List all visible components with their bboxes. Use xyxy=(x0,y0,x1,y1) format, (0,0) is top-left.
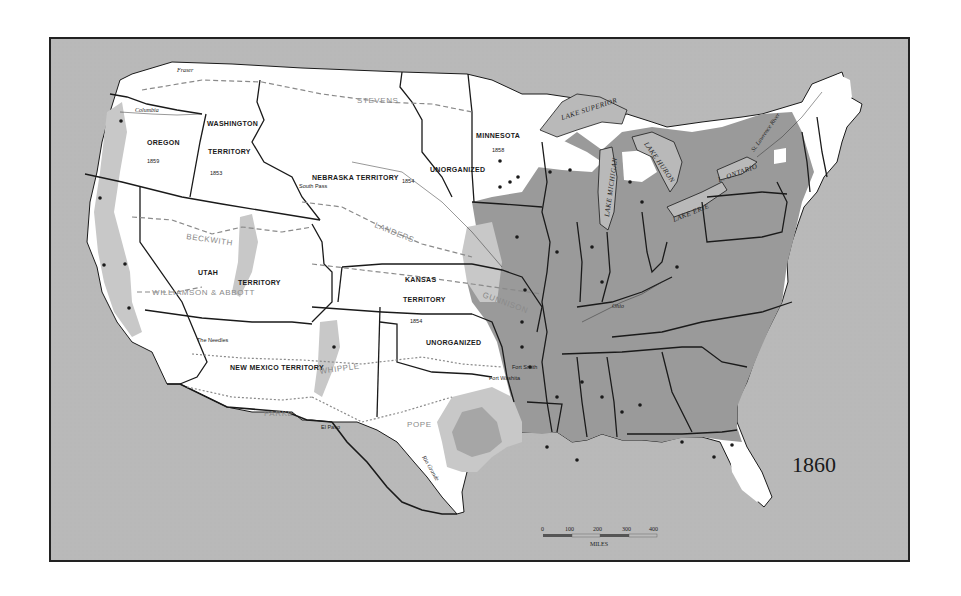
scale-tick-400: 400 xyxy=(649,526,658,532)
label-new-mexico: NEW MEXICO TERRITORY xyxy=(230,364,324,371)
label-el-paso: El Paso xyxy=(321,424,340,430)
label-fort-washita: Fort Washita xyxy=(489,375,521,381)
label-washington-year: 1853 xyxy=(210,170,222,176)
label-ohio: Ohio xyxy=(612,303,624,309)
label-oregon-year: 1859 xyxy=(147,158,159,164)
label-utah-sub: TERRITORY xyxy=(238,279,281,286)
label-route-parke: PARKE xyxy=(264,409,294,418)
map-canvas: OREGON 1859 WASHINGTON TERRITORY 1853 NE… xyxy=(51,39,910,562)
unsettled-adirondacks xyxy=(774,148,786,164)
scale-unit: MILES xyxy=(590,541,608,547)
label-kansas: KANSAS xyxy=(405,276,436,283)
label-washington-sub: TERRITORY xyxy=(208,148,251,155)
label-nebraska-year: 1854 xyxy=(402,178,414,184)
label-route-williamson-abbott: WILLIAMSON & ABBOTT xyxy=(152,288,255,297)
label-kansas-year: 1854 xyxy=(410,318,422,324)
label-oregon: OREGON xyxy=(147,139,180,146)
label-washington: WASHINGTON xyxy=(207,120,258,127)
label-fraser: Fraser xyxy=(176,67,194,73)
scale-tick-0: 0 xyxy=(541,526,544,532)
label-unorganized-north: UNORGANIZED xyxy=(430,166,485,173)
label-unorganized-south: UNORGANIZED xyxy=(426,339,481,346)
map-year-title: 1860 xyxy=(792,452,836,477)
label-kansas-sub: TERRITORY xyxy=(403,296,446,303)
label-utah: UTAH xyxy=(198,269,218,276)
label-minnesota-year: 1858 xyxy=(492,147,504,153)
label-route-stevens: STEVENS xyxy=(357,96,399,105)
label-columbia: Columbia xyxy=(135,107,159,113)
scale-tick-200: 200 xyxy=(593,526,602,532)
map-frame: OREGON 1859 WASHINGTON TERRITORY 1853 NE… xyxy=(49,37,910,562)
label-nebraska: NEBRASKA TERRITORY xyxy=(312,174,399,181)
label-the-needles: The Needles xyxy=(197,337,228,343)
label-fort-smith: Fort Smith xyxy=(512,364,537,370)
scale-tick-100: 100 xyxy=(565,526,574,532)
label-south-pass: South Pass xyxy=(299,183,327,189)
scale-tick-300: 300 xyxy=(622,526,631,532)
label-route-pope: POPE xyxy=(407,420,432,429)
label-minnesota: MINNESOTA xyxy=(476,132,520,139)
